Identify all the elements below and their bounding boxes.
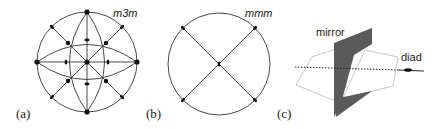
mirror-diad-illustration: [295, 28, 424, 117]
diad-symbol-icon: [404, 68, 412, 72]
point-group-symbol-a: m3m: [113, 7, 137, 19]
panel-label-c: (c): [277, 106, 291, 121]
diad-label: diad: [401, 51, 422, 63]
panel-label-a: (a): [16, 106, 30, 121]
panel-label-b: (b): [146, 106, 161, 121]
figure: m3m (a) mmm (b) mirror diad (c): [0, 0, 440, 129]
point-group-symbol-b: mmm: [245, 7, 273, 19]
mirror-label: mirror: [316, 26, 345, 38]
